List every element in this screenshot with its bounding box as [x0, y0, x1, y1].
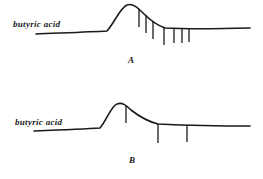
- panel-a-trace-line: [36, 5, 250, 34]
- panel-b-trace-line: [34, 103, 250, 131]
- panel-a-trace-group: [36, 5, 250, 45]
- figure: butyric acid A butyric acid B: [0, 0, 263, 179]
- panel-b-label: B: [129, 155, 135, 165]
- panel-a-label: A: [128, 55, 134, 65]
- panel-b-trace-label: butyric acid: [15, 117, 62, 127]
- panel-b-trace-group: [34, 103, 250, 143]
- panel-a-markers: [139, 10, 189, 45]
- panel-a-trace-label: butyric acid: [13, 19, 60, 29]
